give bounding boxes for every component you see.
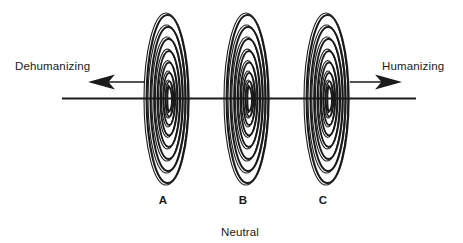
spiral-label-b: B	[239, 195, 248, 207]
spiral-label-a: A	[159, 195, 168, 207]
spiral-vortex-a	[144, 13, 189, 185]
spiral-vortex-c	[304, 13, 349, 185]
arrow-right-icon	[350, 74, 402, 89]
spiral-label-c: C	[319, 195, 328, 207]
spiral-vortex-b	[224, 13, 269, 185]
axis-label-humanizing: Humanizing	[382, 61, 444, 73]
diagram-canvas: Dehumanizing Humanizing A B C Neutral	[0, 0, 463, 243]
axis-label-dehumanizing: Dehumanizing	[15, 61, 90, 73]
axis-label-neutral: Neutral	[221, 227, 259, 239]
arrow-left-icon	[88, 74, 145, 89]
diagram-graphics	[0, 0, 463, 243]
